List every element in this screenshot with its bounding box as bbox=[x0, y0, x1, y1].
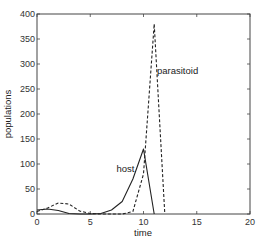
x-tick-label: 20 bbox=[245, 217, 255, 227]
parasitoid-annotation: parasitoid bbox=[157, 65, 198, 76]
y-axis-label: populations bbox=[2, 89, 13, 138]
y-tick-label: 250 bbox=[20, 84, 35, 94]
y-tick-label: 150 bbox=[20, 134, 35, 144]
y-tick-label: 350 bbox=[20, 34, 35, 44]
plot-area bbox=[37, 14, 250, 214]
y-tick-label: 200 bbox=[20, 109, 35, 119]
x-tick-label: 0 bbox=[34, 217, 39, 227]
population-chart: 05101520050100150200250300350400 time po… bbox=[0, 0, 266, 243]
host-annotation: host bbox=[116, 163, 134, 174]
x-tick-label: 5 bbox=[88, 217, 93, 227]
axis-ticks: 05101520050100150200250300350400 bbox=[20, 9, 255, 227]
host-line bbox=[37, 149, 154, 214]
y-tick-label: 50 bbox=[25, 184, 35, 194]
x-tick-label: 15 bbox=[192, 217, 202, 227]
x-axis-label: time bbox=[134, 227, 152, 238]
y-tick-label: 100 bbox=[20, 159, 35, 169]
parasitoid-line bbox=[37, 24, 165, 214]
data-series bbox=[37, 24, 165, 214]
y-tick-label: 300 bbox=[20, 59, 35, 69]
axes-box bbox=[37, 14, 250, 214]
x-tick-label: 10 bbox=[138, 217, 148, 227]
y-tick-label: 0 bbox=[30, 209, 35, 219]
y-tick-label: 400 bbox=[20, 9, 35, 19]
